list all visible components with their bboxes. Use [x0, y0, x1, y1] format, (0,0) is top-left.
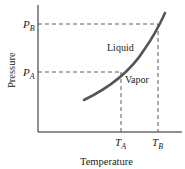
- tb-label: TB: [152, 136, 163, 151]
- liquid-region-label: Liquid: [107, 42, 134, 53]
- x-axis-title: Temperature: [80, 156, 133, 167]
- ta-label: TA: [115, 136, 126, 151]
- phase-diagram: PB PA TA TB Liquid Vapor Temperature Pre…: [0, 0, 185, 169]
- pb-label: PB: [22, 18, 35, 33]
- y-axis-title: Pressure: [6, 52, 17, 88]
- pa-label: PA: [22, 66, 35, 81]
- vapor-pressure-curve: [84, 13, 165, 100]
- vapor-region-label: Vapor: [125, 74, 150, 85]
